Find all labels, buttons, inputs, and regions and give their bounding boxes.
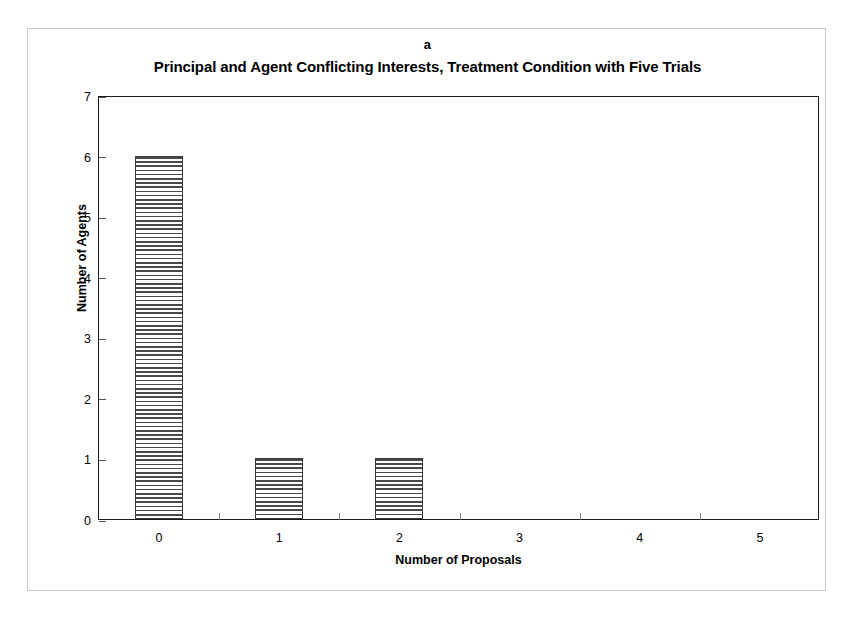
y-tick-label: 2 bbox=[67, 391, 91, 409]
bar-1[interactable] bbox=[255, 458, 303, 519]
x-tick-mark-3 bbox=[460, 513, 461, 520]
plot-area: 0 1 2 3 4 5 6 7 bbox=[98, 96, 819, 520]
y-tick-mark bbox=[99, 218, 106, 219]
x-tick-mark-5 bbox=[700, 513, 701, 520]
y-tick-mark bbox=[99, 399, 106, 400]
y-tick-mark bbox=[99, 521, 106, 522]
x-tick-label-5: 5 bbox=[720, 531, 800, 545]
y-tick-mark bbox=[99, 278, 106, 279]
x-axis-title: Number of Proposals bbox=[98, 553, 819, 567]
y-tick-label: 1 bbox=[67, 451, 91, 469]
y-tick-mark bbox=[99, 157, 106, 158]
x-tick-label-4: 4 bbox=[600, 531, 680, 545]
figure-frame: a Principal and Agent Conflicting Intere… bbox=[27, 28, 826, 591]
x-tick-mark-1 bbox=[219, 513, 220, 520]
chart-title: Principal and Agent Conflicting Interest… bbox=[28, 58, 827, 75]
y-tick-label: 5 bbox=[67, 209, 91, 227]
y-tick-mark bbox=[99, 97, 106, 98]
x-tick-mark-4 bbox=[580, 513, 581, 520]
y-tick-mark bbox=[99, 460, 106, 461]
x-tick-mark-2 bbox=[339, 513, 340, 520]
y-tick-label: 0 bbox=[67, 512, 91, 530]
y-tick-label: 6 bbox=[67, 149, 91, 167]
x-tick-label-1: 1 bbox=[239, 531, 319, 545]
panel-label: a bbox=[28, 37, 827, 52]
bar-0[interactable] bbox=[135, 156, 183, 519]
x-tick-label-3: 3 bbox=[480, 531, 560, 545]
y-tick-label: 7 bbox=[67, 88, 91, 106]
y-tick-mark bbox=[99, 339, 106, 340]
y-tick-label: 3 bbox=[67, 330, 91, 348]
bar-2[interactable] bbox=[375, 458, 423, 519]
x-tick-label-0: 0 bbox=[119, 531, 199, 545]
x-tick-label-2: 2 bbox=[359, 531, 439, 545]
y-tick-label: 4 bbox=[67, 270, 91, 288]
